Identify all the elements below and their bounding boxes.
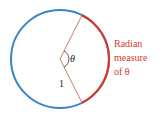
theta-label: θ [70,53,75,64]
radius-label: 1 [59,78,64,89]
radian-arc [82,15,109,103]
angle-marker [64,51,69,67]
annotation-line-2: measure [114,52,148,63]
annotation-line-1: Radian [114,38,142,49]
unit-circle-diagram: θ 1 Radian measure of θ [0,0,163,116]
annotation-line-3: of θ [114,66,130,77]
